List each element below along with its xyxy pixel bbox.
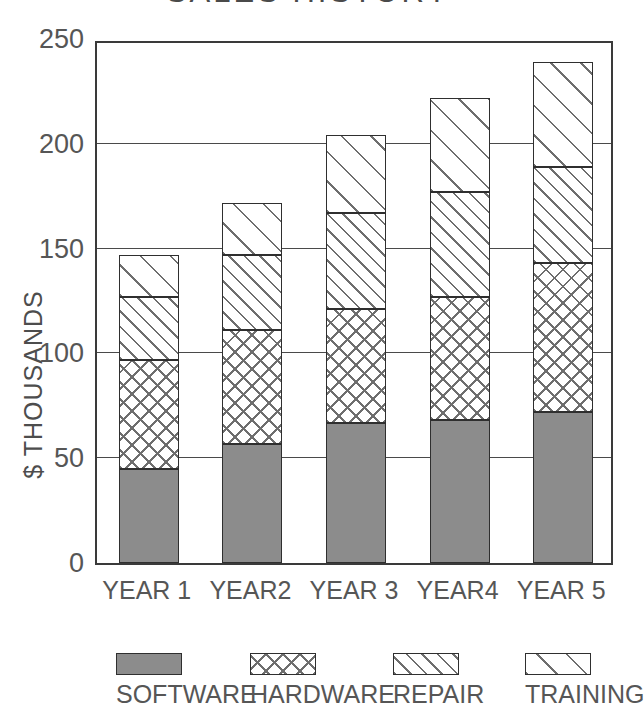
y-tick-label-250: 250 [0,24,84,55]
x-tick-label-year-5: YEAR 5 [501,576,621,605]
legend-label-repair: REPAIR [393,680,484,709]
bar-segment-repair-year-1[interactable] [119,297,179,360]
bar-segment-training-year-3[interactable] [326,135,386,213]
bar-segment-hardware-year-2[interactable] [222,330,282,443]
plot-area [95,41,613,565]
bar-group-1[interactable] [119,39,179,563]
legend-swatch-software [116,653,182,675]
x-tick-label-year-2: YEAR2 [190,576,310,605]
legend-label-hardware: HARDWARE [250,680,395,709]
x-tick-label-year-3: YEAR 3 [294,576,414,605]
bar-segment-training-year-4[interactable] [430,98,490,192]
legend-item-software[interactable]: SOFTWARE [116,653,257,709]
chart-title: SALES HISTORY [0,0,616,10]
y-tick-label-150: 150 [0,234,84,265]
x-tick-label-year-4: YEAR4 [398,576,518,605]
y-tick-label-0: 0 [0,548,84,579]
bar-segment-training-year-1[interactable] [119,255,179,297]
bar-segment-software-year-1[interactable] [119,469,179,563]
chart-legend: SOFTWAREHARDWAREREPAIRTRAINING [0,653,616,714]
x-axis-tick-labels: YEAR 1YEAR2YEAR 3YEAR4YEAR 5 [95,576,613,608]
legend-item-hardware[interactable]: HARDWARE [250,653,395,709]
bar-segment-hardware-year-5[interactable] [533,263,593,412]
bar-segment-repair-year-2[interactable] [222,255,282,330]
bar-group-2[interactable] [222,39,282,563]
legend-item-repair[interactable]: REPAIR [393,653,484,709]
bar-segment-training-year-5[interactable] [533,62,593,167]
bar-group-4[interactable] [430,39,490,563]
y-tick-label-100: 100 [0,338,84,369]
bar-segment-software-year-5[interactable] [533,412,593,563]
y-tick-label-50: 50 [0,443,84,474]
bar-segment-hardware-year-3[interactable] [326,309,386,422]
legend-label-software: SOFTWARE [116,680,257,709]
legend-item-training[interactable]: TRAINING [525,653,644,709]
bar-segment-hardware-year-4[interactable] [430,297,490,421]
bar-segment-software-year-4[interactable] [430,420,490,563]
bar-segment-hardware-year-1[interactable] [119,360,179,469]
bar-segment-repair-year-3[interactable] [326,213,386,309]
y-axis-tick-labels: 050100150200250 [0,41,86,565]
legend-swatch-repair [393,653,459,675]
bar-group-5[interactable] [533,39,593,563]
legend-label-training: TRAINING [525,680,644,709]
bar-segment-repair-year-4[interactable] [430,192,490,297]
legend-swatch-training [525,653,591,675]
bar-segment-training-year-2[interactable] [222,203,282,255]
legend-swatch-hardware [250,653,316,675]
y-tick-label-200: 200 [0,129,84,160]
bar-group-3[interactable] [326,39,386,563]
bar-segment-repair-year-5[interactable] [533,167,593,263]
x-tick-label-year-1: YEAR 1 [87,576,207,605]
bar-segment-software-year-2[interactable] [222,444,282,563]
bar-segment-software-year-3[interactable] [326,423,386,563]
